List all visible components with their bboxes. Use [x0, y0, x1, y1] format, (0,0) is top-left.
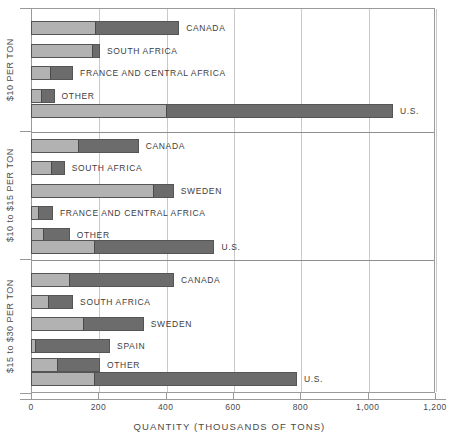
bar-segment-lower	[32, 241, 94, 253]
group-tick-end-2	[20, 393, 31, 394]
bar-label: SPAIN	[117, 339, 145, 353]
bar-segment-lower	[32, 140, 78, 152]
bar-row: OTHER	[0, 358, 459, 372]
bar-segment-lower	[32, 162, 51, 174]
group-tick-0	[20, 8, 31, 9]
bar-canada	[31, 21, 179, 35]
bar-canada	[31, 273, 174, 287]
x-axis-line	[20, 399, 446, 400]
x-tick-1000	[368, 393, 369, 399]
x-tick-label-1000: 1,000	[356, 402, 379, 412]
bar-segment-lower	[32, 274, 69, 286]
bar-segment-upper	[69, 274, 174, 286]
bar-segment-upper	[35, 340, 109, 352]
bar-segment-upper	[94, 373, 296, 385]
bar-row: FRANCE AND CENTRAL AFRICA	[0, 66, 459, 80]
bar-segment-lower	[32, 373, 94, 385]
x-tick-label-800: 800	[293, 402, 308, 412]
x-tick-label-0: 0	[28, 402, 33, 412]
bar-row: OTHER	[0, 89, 459, 103]
bar-row: CANADA	[0, 139, 459, 153]
bar-label: SOUTH AFRICA	[107, 44, 178, 58]
group-separator	[32, 132, 434, 133]
bar-label: U.S.	[221, 240, 240, 254]
x-tick-400	[166, 393, 167, 399]
x-tick-label-600: 600	[225, 402, 240, 412]
bar-label: OTHER	[62, 89, 95, 103]
bar-u-s-	[31, 104, 393, 118]
bar-u-s-	[31, 240, 214, 254]
x-tick-label-1200: 1,200	[423, 402, 446, 412]
bar-segment-upper	[95, 22, 178, 34]
x-tick-label-200: 200	[91, 402, 106, 412]
bar-label: SOUTH AFRICA	[80, 295, 151, 309]
bar-label: SOUTH AFRICA	[72, 161, 143, 175]
bar-segment-upper	[94, 241, 214, 253]
bar-south-africa	[31, 161, 65, 175]
bar-sweden	[31, 317, 144, 331]
bar-south-africa	[31, 295, 73, 309]
bar-segment-upper	[153, 185, 173, 197]
bar-sweden	[31, 184, 174, 198]
bar-segment-lower	[32, 90, 41, 102]
bar-segment-upper	[57, 359, 99, 371]
bar-segment-upper	[83, 318, 143, 330]
bar-row: SOUTH AFRICA	[0, 161, 459, 175]
bar-label: U.S.	[400, 104, 419, 118]
stacked-bar-chart: $10 PER TON$10 to $15 PER TON$15 to $30 …	[0, 0, 459, 443]
x-tick-label-400: 400	[158, 402, 173, 412]
x-tick-200	[98, 393, 99, 399]
bar-row: FRANCE AND CENTRAL AFRICA	[0, 206, 459, 220]
group-separator	[32, 260, 434, 261]
bar-row: U.S.	[0, 240, 459, 254]
bar-row: CANADA	[0, 21, 459, 35]
bar-segment-upper	[51, 162, 64, 174]
bar-segment-upper	[50, 67, 72, 79]
bar-segment-lower	[32, 105, 166, 117]
bar-segment-upper	[92, 45, 99, 57]
x-tick-800	[300, 393, 301, 399]
bar-segment-upper	[41, 90, 53, 102]
bar-row: SWEDEN	[0, 184, 459, 198]
bar-segment-lower	[32, 185, 153, 197]
bar-row: U.S.	[0, 372, 459, 386]
bar-row: CANADA	[0, 273, 459, 287]
bar-row: SOUTH AFRICA	[0, 295, 459, 309]
bar-south-africa	[31, 44, 100, 58]
bar-label: SWEDEN	[181, 184, 222, 198]
x-tick-0	[31, 393, 32, 399]
bar-row: U.S.	[0, 104, 459, 118]
bar-row: SWEDEN	[0, 317, 459, 331]
bar-other	[31, 358, 100, 372]
bar-segment-lower	[32, 318, 83, 330]
bar-segment-lower	[32, 67, 50, 79]
x-axis-title: QUANTITY (THOUSANDS OF TONS)	[0, 421, 459, 432]
group-tick-1	[20, 131, 31, 132]
bar-label: CANADA	[181, 273, 220, 287]
bar-u-s-	[31, 372, 297, 386]
bar-spain	[31, 339, 110, 353]
bar-segment-upper	[38, 207, 52, 219]
bar-canada	[31, 139, 139, 153]
x-tick-1200	[435, 393, 436, 399]
bar-segment-upper	[78, 140, 137, 152]
bar-segment-lower	[32, 359, 57, 371]
bar-segment-lower	[32, 296, 48, 308]
bar-segment-upper	[48, 296, 72, 308]
bar-row: SOUTH AFRICA	[0, 44, 459, 58]
bar-segment-upper	[166, 105, 392, 117]
bar-row: SPAIN	[0, 339, 459, 353]
x-tick-600	[233, 393, 234, 399]
bar-label: CANADA	[146, 139, 185, 153]
bar-france-and-central-africa	[31, 206, 53, 220]
group-tick-2	[20, 259, 31, 260]
bar-segment-lower	[32, 45, 92, 57]
bar-other	[31, 89, 55, 103]
bar-label: OTHER	[107, 358, 140, 372]
bar-label: SWEDEN	[151, 317, 192, 331]
bar-label: FRANCE AND CENTRAL AFRICA	[80, 66, 226, 80]
bar-segment-lower	[32, 22, 95, 34]
bar-label: FRANCE AND CENTRAL AFRICA	[60, 206, 206, 220]
bar-france-and-central-africa	[31, 66, 73, 80]
bar-label: U.S.	[304, 372, 323, 386]
